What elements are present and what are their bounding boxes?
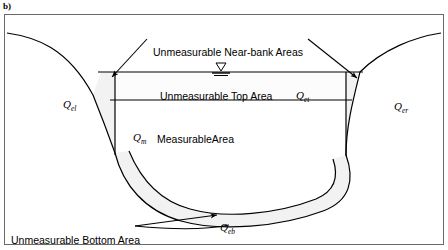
- symbol-q-eb-base: Q: [220, 221, 228, 233]
- symbol-q-et-subscript: et: [304, 95, 309, 104]
- symbol-q-et-base: Q: [296, 89, 304, 101]
- symbol-q-eb: Qeb: [220, 222, 235, 236]
- symbol-q-eb-subscript: eb: [228, 227, 235, 236]
- water-surface-triangle-icon: [212, 63, 230, 76]
- symbol-q-m: Qm: [133, 132, 146, 146]
- right-near-bank-shade: [346, 72, 360, 155]
- symbol-q-et: Qet: [296, 90, 309, 104]
- symbol-q-er: Qer: [394, 101, 408, 115]
- label-unmeasurable-top-area: Unmeasurable Top Area: [160, 91, 272, 102]
- panel-label: b): [3, 1, 11, 11]
- symbol-q-m-subscript: m: [141, 137, 146, 146]
- bottom-unmeasurable-band: [115, 151, 350, 227]
- symbol-q-er-subscript: er: [402, 106, 408, 115]
- figure-frame: Unmeasurable Near-bank Areas Unmeasurabl…: [4, 14, 444, 245]
- symbol-q-el-subscript: el: [71, 104, 76, 113]
- symbol-q-er-base: Q: [394, 100, 402, 112]
- right-bank-profile: [346, 33, 441, 155]
- left-near-bank-shade: [93, 72, 115, 153]
- figure-page: b): [0, 0, 448, 250]
- label-measurable-area: MeasurableArea: [157, 134, 234, 145]
- near-bank-leader-left: [112, 39, 147, 77]
- label-unmeasurable-near-bank-areas: Unmeasurable Near-bank Areas: [153, 47, 303, 58]
- symbol-q-m-base: Q: [133, 131, 141, 143]
- symbol-q-el-base: Q: [63, 98, 71, 110]
- symbol-q-el: Qel: [63, 99, 76, 113]
- label-unmeasurable-bottom-area: Unmeasurable Bottom Area: [11, 235, 140, 246]
